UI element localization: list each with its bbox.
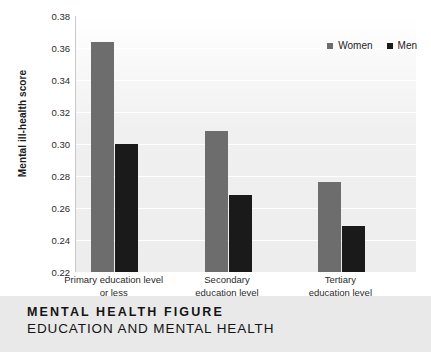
plot-area: [75, 16, 416, 272]
caption-subtitle: EDUCATION AND MENTAL HEALTH: [27, 320, 431, 338]
bar-women-group-2: [205, 131, 228, 272]
y-tick-label: 0.28: [40, 171, 70, 182]
legend-swatch-icon: [327, 43, 333, 49]
y-tick-label: 0.34: [40, 75, 70, 86]
caption-band: MENTAL HEALTH FIGURE EDUCATION AND MENTA…: [0, 296, 431, 352]
y-tick-label: 0.38: [40, 11, 70, 22]
y-axis-tick-labels: 0.380.360.340.320.300.280.260.240.22: [40, 16, 70, 272]
bar-men-group-1: [115, 144, 138, 272]
legend-item-women: Women: [327, 40, 372, 51]
y-tick-label: 0.36: [40, 43, 70, 54]
bar-men-group-3: [342, 226, 365, 272]
gridline: [76, 80, 416, 81]
y-axis-title: Mental ill-health score: [17, 44, 28, 204]
chart-region: Mental ill-health score 0.380.360.340.32…: [0, 0, 431, 296]
gridline: [76, 272, 416, 273]
y-tick-label: 0.24: [40, 235, 70, 246]
y-tick-label: 0.30: [40, 139, 70, 150]
caption-title: MENTAL HEALTH FIGURE: [27, 304, 431, 320]
mental-health-figure: Mental ill-health score 0.380.360.340.32…: [0, 0, 431, 352]
gridline: [76, 16, 416, 17]
legend-swatch-icon: [387, 43, 393, 49]
bar-women-group-3: [318, 182, 341, 272]
gridline: [76, 112, 416, 113]
y-tick-label: 0.26: [40, 203, 70, 214]
chart-legend: WomenMen: [327, 40, 417, 51]
legend-item-men: Men: [387, 40, 417, 51]
legend-label: Women: [338, 40, 372, 51]
bar-men-group-2: [229, 195, 252, 272]
bar-women-group-1: [91, 42, 114, 272]
legend-label: Men: [398, 40, 417, 51]
y-tick-label: 0.32: [40, 107, 70, 118]
